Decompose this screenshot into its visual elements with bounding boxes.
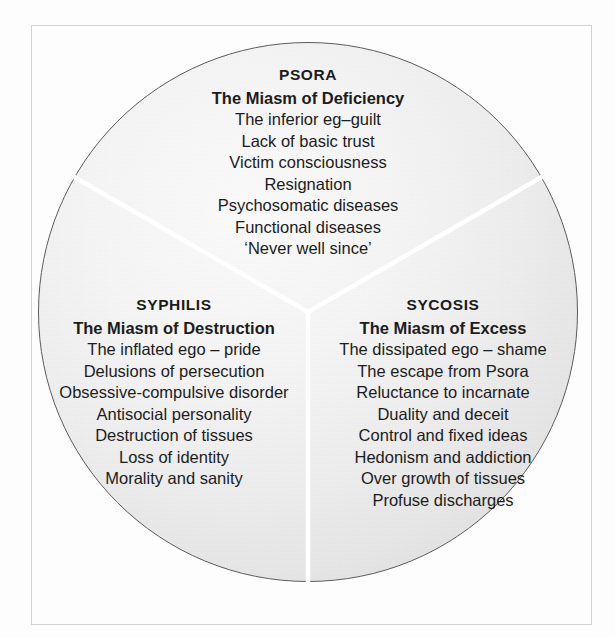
- sector-syphilis-trait: Destruction of tissues: [35, 425, 313, 447]
- sector-sycosis: SYCOSIS The Miasm of Excess The dissipat…: [304, 294, 582, 511]
- sector-sycosis-subheading: The Miasm of Excess: [304, 317, 582, 339]
- sector-sycosis-heading: SYCOSIS: [304, 294, 582, 315]
- sector-psora-trait: Victim consciousness: [108, 152, 508, 174]
- sector-psora: PSORA The Miasm of Deficiency The inferi…: [108, 64, 508, 260]
- sector-syphilis-trait: Loss of identity: [35, 447, 313, 469]
- sector-sycosis-trait: Duality and deceit: [304, 404, 582, 426]
- sector-sycosis-trait: Profuse discharges: [304, 490, 582, 512]
- sector-sycosis-trait: Control and fixed ideas: [304, 425, 582, 447]
- sector-psora-trait: ‘Never well since’: [108, 238, 508, 260]
- scanned-page: PSORA The Miasm of Deficiency The inferi…: [0, 0, 615, 638]
- sector-sycosis-trait: Reluctance to incarnate: [304, 382, 582, 404]
- sector-psora-trait: The inferior eg–guilt: [108, 109, 508, 131]
- sector-syphilis-heading: SYPHILIS: [35, 294, 313, 315]
- sector-psora-subheading: The Miasm of Deficiency: [108, 87, 508, 109]
- sector-sycosis-trait: The escape from Psora: [304, 361, 582, 383]
- sector-syphilis-trait: The inflated ego – pride: [35, 339, 313, 361]
- miasm-circle-diagram: PSORA The Miasm of Deficiency The inferi…: [38, 42, 578, 582]
- sector-syphilis-trait: Obsessive-compulsive disorder: [35, 382, 313, 404]
- sector-syphilis: SYPHILIS The Miasm of Destruction The in…: [35, 294, 313, 490]
- sector-psora-trait: Psychosomatic diseases: [108, 195, 508, 217]
- sector-syphilis-trait: Delusions of persecution: [35, 361, 313, 383]
- sector-syphilis-trait: Morality and sanity: [35, 468, 313, 490]
- sector-psora-trait: Lack of basic trust: [108, 131, 508, 153]
- sector-sycosis-trait: Over growth of tissues: [304, 468, 582, 490]
- sector-psora-trait: Functional diseases: [108, 217, 508, 239]
- sector-sycosis-trait: The dissipated ego – shame: [304, 339, 582, 361]
- sector-sycosis-trait: Hedonism and addiction: [304, 447, 582, 469]
- sector-psora-trait: Resignation: [108, 174, 508, 196]
- sector-syphilis-trait: Antisocial personality: [35, 404, 313, 426]
- sector-syphilis-subheading: The Miasm of Destruction: [35, 317, 313, 339]
- sector-psora-heading: PSORA: [108, 64, 508, 85]
